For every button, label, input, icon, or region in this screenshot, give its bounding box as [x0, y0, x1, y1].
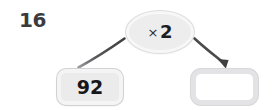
rule-operand: 2 — [160, 23, 173, 41]
rule-oval: × 2 — [126, 11, 194, 53]
input-value-box: 92 — [57, 69, 123, 105]
connector-input-to-rule-icon — [79, 39, 125, 68]
function-machine-worksheet: 16 × 2 92 — [0, 0, 272, 110]
output-answer-box[interactable] — [191, 69, 258, 105]
multiply-icon: × — [148, 25, 159, 38]
connector-rule-to-output-icon — [195, 39, 223, 63]
rule-label: × 2 — [148, 23, 173, 41]
problem-number: 16 — [19, 10, 46, 30]
input-value: 92 — [77, 77, 103, 96]
arrowhead-icon — [218, 59, 229, 69]
